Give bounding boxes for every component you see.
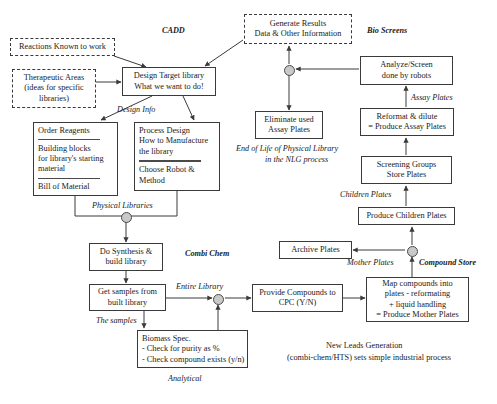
node-line: Design Target library bbox=[134, 71, 205, 81]
node-line: Choose Robot & bbox=[139, 165, 195, 175]
node-reformat-dilute[interactable]: Reformat & dilute = Produce Assay Plates bbox=[360, 108, 454, 136]
node-process-design[interactable]: Process Design How to Manufacture the li… bbox=[134, 122, 220, 191]
diagram-subtitle: (combi-chem/HTS) sets simple industrial … bbox=[287, 353, 451, 363]
node-get-samples[interactable]: Get samples from built library bbox=[89, 284, 166, 311]
node-line: Reformat & dilute bbox=[377, 112, 438, 122]
junction-entire-library bbox=[213, 294, 224, 305]
node-line: Store Plates bbox=[387, 170, 426, 180]
node-line: Do Synthesis & bbox=[100, 247, 153, 257]
node-line: What we want to do! bbox=[134, 82, 204, 92]
junction-bio-screens-results bbox=[284, 65, 295, 76]
edge-label-physical-libraries: Physical Libraries bbox=[92, 201, 153, 211]
node-generate-results[interactable]: Generate Results Data & Other Informatio… bbox=[244, 14, 352, 44]
diagram-canvas: Reactions Known to work Therapeutic Area… bbox=[0, 0, 497, 404]
node-screening-groups[interactable]: Screening Groups Store Plates bbox=[361, 156, 452, 184]
node-line: Building blocks bbox=[38, 144, 91, 154]
node-line: build library bbox=[105, 257, 146, 267]
node-reactions-known[interactable]: Reactions Known to work bbox=[10, 38, 115, 56]
node-line: + liquid handling bbox=[389, 300, 446, 310]
node-line: Map compounds into bbox=[382, 279, 453, 289]
node-line: the library bbox=[139, 147, 173, 157]
node-line: Data & Other Information bbox=[255, 29, 342, 39]
junction-physical-libraries bbox=[121, 212, 132, 223]
node-line: CPC (Y/N) bbox=[279, 298, 317, 308]
node-map-compounds[interactable]: Map compounds into plates - reformating … bbox=[366, 277, 469, 322]
node-line: Screening Groups bbox=[377, 160, 437, 170]
divider bbox=[38, 178, 100, 179]
node-line: = Produce Assay Plates bbox=[368, 122, 446, 132]
node-do-synthesis[interactable]: Do Synthesis & build library bbox=[89, 243, 163, 271]
node-design-target-library[interactable]: Design Target library What we want to do… bbox=[122, 67, 216, 96]
swimlane-label-bio-screens: Bio Screens bbox=[367, 26, 407, 36]
node-provide-compounds-cpc[interactable]: Provide Compounds to CPC (Y/N) bbox=[252, 284, 343, 312]
node-line: How to Manufacture bbox=[139, 136, 208, 146]
junction-compound-store bbox=[407, 246, 418, 257]
node-line: Assay Plates bbox=[268, 125, 310, 135]
node-order-reagents[interactable]: Order Reagents Building blocks for libra… bbox=[33, 122, 118, 196]
node-line: Eliminate used bbox=[264, 115, 314, 125]
node-line: Reactions Known to work bbox=[19, 42, 106, 52]
annotation-end-of-life-line1: End of Life of Physical Library bbox=[236, 144, 338, 154]
node-line: Produce Children Plates bbox=[366, 211, 446, 221]
node-line: Provide Compounds to bbox=[259, 288, 336, 298]
node-line: libraries) bbox=[39, 94, 69, 104]
node-line: Bill of Material bbox=[38, 182, 90, 192]
annotation-end-of-life-line2: in the NLG process bbox=[265, 155, 328, 165]
node-line: - Check for purity as % bbox=[142, 344, 220, 354]
edge-label-assay-plates: Assay Plates bbox=[411, 93, 453, 103]
node-line: Generate Results bbox=[270, 19, 326, 29]
divider bbox=[38, 139, 100, 140]
node-line: for library's starting bbox=[38, 154, 104, 164]
node-line: Method bbox=[139, 176, 165, 186]
node-archive-plates[interactable]: Archive Plates bbox=[279, 241, 352, 259]
node-therapeutic-areas[interactable]: Therapeutic Areas (ideas for specific li… bbox=[12, 69, 96, 108]
node-biomass-spec[interactable]: Biomass Spec. - Check for purity as % - … bbox=[137, 330, 248, 368]
swimlane-label-compound-store: Compound Store bbox=[419, 258, 476, 268]
node-line: built library bbox=[108, 298, 147, 308]
node-line: Order Reagents bbox=[38, 126, 90, 136]
edge-label-mother-plates: Mother Plates bbox=[347, 258, 394, 268]
node-line: Therapeutic Areas bbox=[24, 73, 85, 83]
edge-label-analytical: Analytical bbox=[168, 374, 202, 384]
divider bbox=[139, 160, 201, 162]
node-line: Archive Plates bbox=[291, 245, 340, 255]
node-produce-children-plates[interactable]: Produce Children Plates bbox=[358, 207, 455, 225]
node-line: Get samples from bbox=[98, 287, 157, 297]
node-line: done by robots bbox=[382, 71, 431, 81]
edge-label-design-info: Design Info bbox=[117, 105, 155, 115]
node-line: material bbox=[38, 164, 65, 174]
diagram-title: New Leads Generation bbox=[326, 341, 402, 351]
node-eliminate-used-assay-plates[interactable]: Eliminate used Assay Plates bbox=[255, 111, 323, 139]
node-line: - Check compound exists (y/n) bbox=[142, 355, 244, 365]
swimlane-label-combi-chem: Combi Chem bbox=[185, 249, 229, 259]
node-line: Biomass Spec. bbox=[142, 334, 191, 344]
node-analyze-screen[interactable]: Analyze/Screen done by robots bbox=[360, 56, 453, 85]
node-line: Analyze/Screen bbox=[380, 60, 433, 70]
edge-label-the-samples: The samples bbox=[96, 316, 137, 326]
node-line: = Produce Mother Plates bbox=[376, 310, 458, 320]
node-line: Process Design bbox=[139, 126, 190, 136]
node-line: (ideas for specific bbox=[24, 83, 83, 93]
swimlane-label-cadd: CADD bbox=[162, 26, 185, 36]
edge-label-entire-library: Entire Library bbox=[176, 282, 223, 292]
edge-label-children-plates: Children Plates bbox=[340, 190, 391, 200]
node-line: plates - reformating bbox=[385, 289, 450, 299]
